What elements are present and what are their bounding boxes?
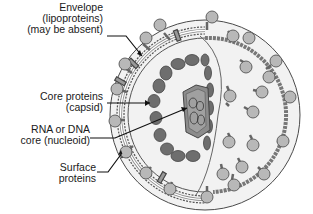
label-surface-proteins: Surface proteins bbox=[2, 162, 96, 184]
nucleoid bbox=[183, 85, 210, 138]
label-capsid: Core proteins (capsid) bbox=[2, 91, 103, 113]
label-envelope: Envelope (lipoproteins) (may be absent) bbox=[2, 2, 103, 35]
label-nucleoid: RNA or DNA core (nucleoid) bbox=[2, 124, 90, 146]
virus-diagram: Envelope (lipoproteins) (may be absent) … bbox=[0, 0, 313, 214]
